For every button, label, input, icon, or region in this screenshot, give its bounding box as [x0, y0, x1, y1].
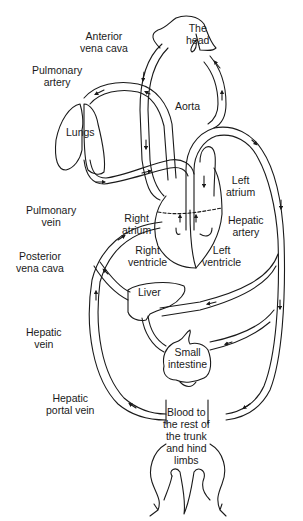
label-aorta: Aorta: [175, 100, 200, 112]
mesenteric-artery: [210, 310, 274, 350]
hepatic-vein: [94, 262, 130, 300]
label-liver: Liver: [138, 286, 161, 298]
pulmonary-return-loop: [200, 147, 215, 196]
label-hepatic-artery: Hepaticartery: [228, 214, 264, 238]
hepatic-portal-vein: [142, 316, 166, 352]
label-lungs: Lungs: [66, 126, 95, 138]
label-posterior-vena-cava: Posteriorvena cava: [16, 250, 64, 274]
label-hepatic-portal-vein: Hepaticportal vein: [46, 392, 94, 416]
pulmonary-artery: [84, 83, 176, 180]
label-pulmonary-vein: Pulmonaryvein: [26, 204, 76, 228]
label-anterior-vena-cava: Anteriorvena cava: [80, 30, 128, 54]
label-small-intestine: Smallintestine: [168, 346, 207, 370]
label-hepatic-vein: Hepaticvein: [26, 326, 62, 350]
lungs-outline: [55, 104, 104, 174]
aorta-arch: [186, 127, 284, 420]
label-right-atrium: Rightatrium: [122, 212, 151, 236]
label-right-ventricle: Rightventricle: [128, 244, 167, 268]
label-left-ventricle: Leftventricle: [202, 244, 241, 268]
aorta-to-head: [204, 56, 226, 128]
pulmonary-vein: [84, 160, 194, 184]
anterior-vena-cava: [140, 44, 168, 200]
label-blood-to-trunk: Blood to the rest of the trunk and hind …: [163, 406, 210, 466]
label-the-head: Thehead: [186, 22, 209, 46]
label-pulmonary-artery: Pulmonaryartery: [32, 64, 82, 88]
label-left-atrium: Leftatrium: [226, 174, 255, 198]
